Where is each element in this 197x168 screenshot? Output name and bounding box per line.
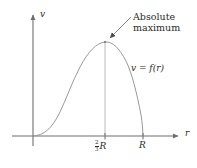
r-axis-label: r: [185, 128, 189, 138]
tick-label-two-thirds-R: 2 3 R: [95, 140, 106, 152]
v-axis-label: v: [40, 9, 45, 19]
fraction-two-thirds: 2 3: [95, 140, 99, 152]
annotation-leader-line: [110, 17, 131, 38]
absolute-maximum-annotation: Absolute maximum: [133, 12, 180, 34]
tick-label-R: R: [139, 140, 146, 150]
tick-label-symbol-R: R: [100, 141, 107, 151]
curve-equation-label: v = f(r): [131, 63, 164, 73]
function-curve: [33, 42, 143, 136]
curve-equation-equals: =: [136, 63, 149, 73]
annotation-line-1: Absolute: [133, 11, 175, 22]
annotation-line-2: maximum: [133, 23, 180, 34]
curve-equation-function: f(r): [149, 63, 164, 73]
fraction-denominator: 3: [95, 146, 99, 153]
maximum-point-marker: [104, 41, 106, 43]
figure-container: v r v = f(r) Absolute maximum 2 3 R R: [0, 0, 197, 168]
